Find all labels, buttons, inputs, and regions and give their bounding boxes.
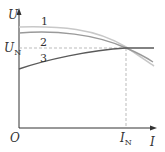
curve-1-label: 1: [41, 15, 48, 28]
origin-label: O: [10, 131, 20, 145]
curve-2-label: 2: [40, 36, 47, 49]
voltage-current-diagram: U I O UN IN 1 2 3: [0, 0, 165, 152]
x-axis-arrow-icon: [150, 126, 157, 131]
curve-3-label: 3: [40, 52, 47, 65]
x-axis-label: I: [149, 135, 155, 149]
rated-current-label: IN: [119, 131, 132, 147]
y-axis-label: U: [8, 8, 19, 22]
